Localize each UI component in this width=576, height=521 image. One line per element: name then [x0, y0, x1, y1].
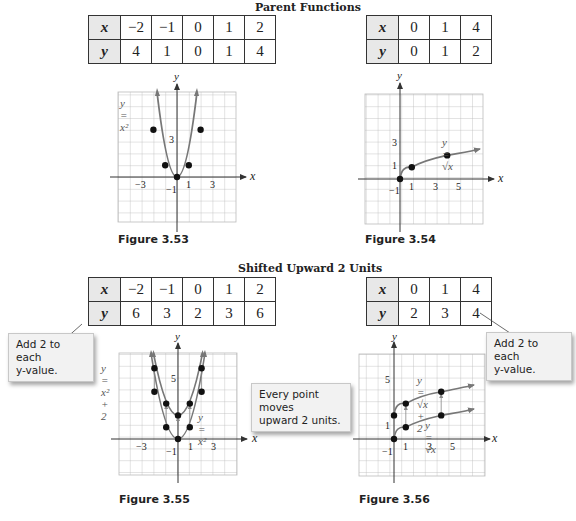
tick-label: −1: [389, 185, 400, 196]
note-line: Every point moves: [259, 388, 343, 414]
tick-label: 3: [427, 441, 432, 452]
note-add-2-right: Add 2 to each y-value.: [486, 332, 572, 381]
curve-label-shifted: y = x² + 2: [101, 362, 109, 422]
tick-label: 3: [210, 179, 215, 190]
tick-label: 1: [403, 441, 408, 452]
figure-3-55-graph: [111, 343, 247, 483]
figure-3-54-graph: [358, 83, 494, 232]
figure-3-54-caption: Figure 3.54: [365, 233, 436, 246]
tick-label: −1: [382, 446, 393, 457]
note-line: Add 2 to each: [16, 338, 86, 364]
note-line: upward 2 units.: [259, 414, 343, 427]
x-axis-label: x: [250, 169, 255, 184]
tick-label: −3: [136, 441, 147, 452]
y-axis-label: y: [397, 69, 402, 81]
note-line: Add 2 to each: [494, 337, 564, 363]
tick-label: 5: [385, 374, 390, 385]
tick-label: −1: [166, 446, 177, 457]
figure-3-55-caption: Figure 3.55: [119, 493, 190, 506]
tick-label: 1: [186, 179, 191, 190]
tick-label: −3: [135, 179, 146, 190]
figure-3-53-graph: [110, 84, 246, 232]
curve-label-parent: y = x²: [198, 411, 206, 447]
tick-label: 5: [456, 181, 461, 192]
tick-label: 3: [433, 181, 438, 192]
callout-line-right: [480, 313, 510, 333]
tick-label: 1: [188, 441, 193, 452]
figure-3-53-caption: Figure 3.53: [118, 233, 189, 246]
graphs-canvas: [0, 0, 576, 521]
figure-3-56-caption: Figure 3.56: [359, 493, 430, 506]
y-axis-label: y: [175, 330, 180, 342]
curve-label: y = x²: [120, 97, 128, 133]
note-every-point-moves: Every point moves upward 2 units.: [251, 383, 351, 432]
tick-label: 3: [211, 441, 216, 452]
tick-label: 1: [385, 420, 390, 431]
tick-label: 1: [392, 160, 397, 171]
tick-label: 5: [171, 373, 176, 384]
x-axis-label: x: [252, 431, 257, 446]
tick-label: 3: [169, 134, 174, 145]
tick-label: −1: [166, 184, 177, 195]
note-add-2-left: Add 2 to each y-value.: [8, 333, 94, 382]
y-axis-label: y: [174, 70, 179, 82]
note-line: y-value.: [16, 364, 86, 377]
x-axis-label: x: [492, 431, 497, 446]
x-axis-label: x: [498, 171, 503, 186]
y-axis-label: y: [392, 330, 397, 342]
tick-label: 3: [392, 137, 397, 148]
note-line: y-value.: [494, 363, 564, 376]
tick-label: 1: [409, 181, 414, 192]
curve-label: y = √x: [442, 136, 453, 172]
tick-label: 5: [450, 441, 455, 452]
